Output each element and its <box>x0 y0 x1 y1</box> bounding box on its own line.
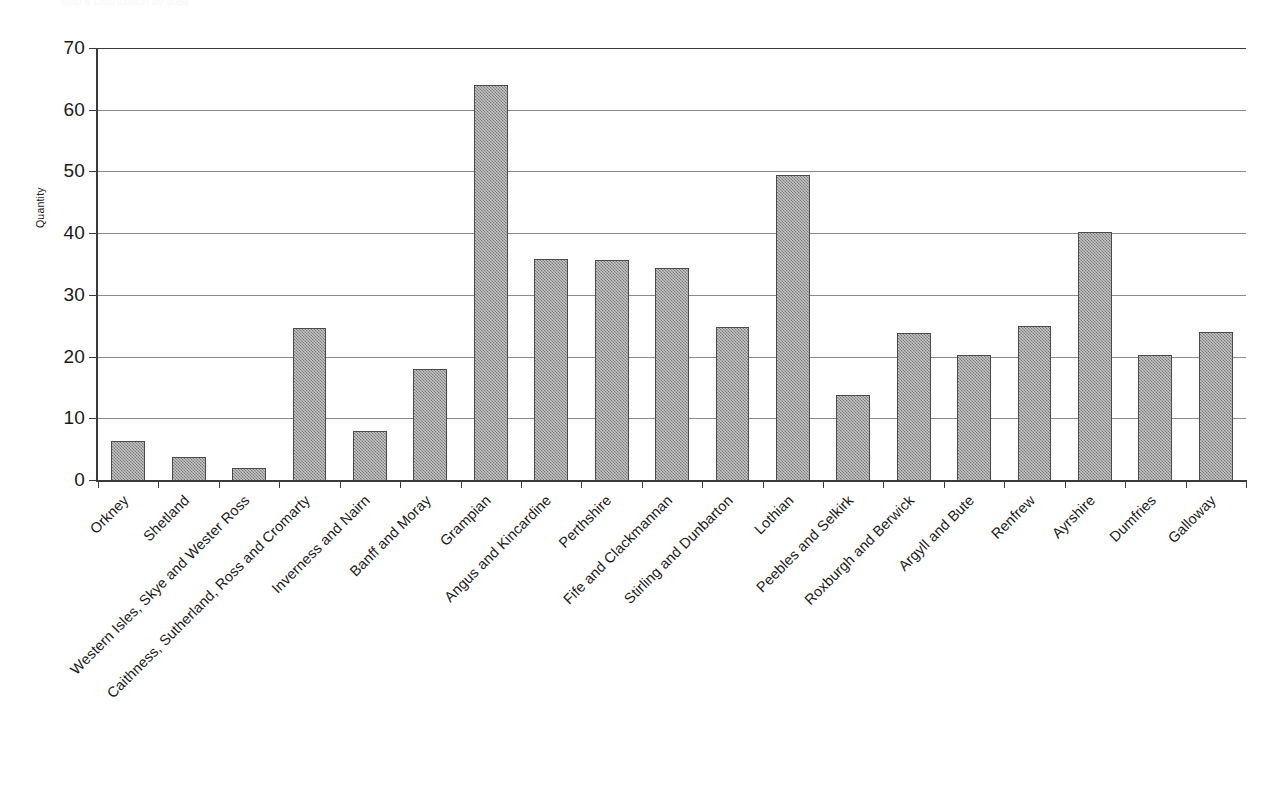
bar[interactable] <box>172 457 206 480</box>
bar[interactable] <box>1138 355 1172 480</box>
bar-slot <box>158 48 218 480</box>
bar[interactable] <box>1078 232 1112 480</box>
bar[interactable] <box>353 431 387 480</box>
bar-slot <box>98 48 158 480</box>
x-axis-tick-label: Perthshire <box>556 492 615 551</box>
bar[interactable] <box>232 468 266 480</box>
bar[interactable] <box>897 333 931 480</box>
bar[interactable] <box>293 328 327 480</box>
x-axis-tick <box>1246 480 1247 488</box>
y-axis-tick-label: 0 <box>74 469 85 491</box>
y-axis-tick <box>89 418 98 419</box>
bar-slot <box>642 48 702 480</box>
bar-slot <box>279 48 339 480</box>
bar-slot <box>1004 48 1064 480</box>
cut-off-title: Map 6 Distribution by area <box>60 0 660 6</box>
bar[interactable] <box>474 85 508 480</box>
bar-slot <box>340 48 400 480</box>
bar-slot <box>1186 48 1246 480</box>
bar-slot <box>581 48 641 480</box>
y-axis-tick <box>89 480 98 481</box>
y-axis-tick <box>89 48 98 49</box>
y-axis-tick <box>89 233 98 234</box>
y-axis-tick <box>89 110 98 111</box>
bar[interactable] <box>1018 326 1052 480</box>
bar[interactable] <box>957 355 991 480</box>
bar[interactable] <box>413 369 447 480</box>
x-axis-tick-label: Roxburgh and Berwick <box>801 492 917 608</box>
y-axis-tick-label: 60 <box>63 99 85 121</box>
plot-area: 706050403020100 <box>96 48 1246 482</box>
x-axis-tick-label: Orkney <box>87 492 132 537</box>
bar[interactable] <box>534 259 568 480</box>
bar[interactable] <box>655 268 689 480</box>
x-axis-tick-label: Galloway <box>1165 492 1219 546</box>
bar-slot <box>1065 48 1125 480</box>
x-axis-tick-label: Stirling and Dunbarton <box>621 492 736 607</box>
y-axis-tick-label: 50 <box>63 160 85 182</box>
bar-series <box>98 48 1246 480</box>
bar-slot <box>944 48 1004 480</box>
x-axis-tick-label: Lothian <box>751 492 796 537</box>
bar[interactable] <box>776 175 810 480</box>
y-axis-tick <box>89 295 98 296</box>
bar-slot <box>219 48 279 480</box>
bar[interactable] <box>716 327 750 480</box>
x-axis-tick-label: Ayrshire <box>1049 492 1098 541</box>
bar-slot <box>702 48 762 480</box>
x-axis-tick-label: Angus and Kincardine <box>441 492 554 605</box>
x-axis-tick-label: Dumfries <box>1106 492 1159 545</box>
bar-slot <box>400 48 460 480</box>
bar[interactable] <box>595 260 629 480</box>
bar-slot <box>461 48 521 480</box>
x-axis-labels: OrkneyShetlandWestern Isles, Skye and We… <box>96 484 1246 654</box>
bar[interactable] <box>111 441 145 480</box>
bar-slot <box>823 48 883 480</box>
x-axis-tick-label: Grampian <box>437 492 494 549</box>
y-axis-title: Quantity <box>34 187 46 228</box>
y-axis-tick-label: 30 <box>63 284 85 306</box>
bar[interactable] <box>836 395 870 480</box>
x-axis-tick-label: Shetland <box>140 492 192 544</box>
x-axis-tick-label: Renfrew <box>988 492 1038 542</box>
bar-slot <box>521 48 581 480</box>
x-axis-tick-label: Fife and Clackmannan <box>560 492 675 607</box>
y-axis-tick-label: 40 <box>63 222 85 244</box>
y-axis-tick-label: 20 <box>63 346 85 368</box>
bar-slot <box>883 48 943 480</box>
bar[interactable] <box>1199 332 1233 480</box>
y-axis-tick <box>89 171 98 172</box>
bar-slot <box>763 48 823 480</box>
y-axis-tick-label: 70 <box>63 37 85 59</box>
chart-page: Map 6 Distribution by area Quantity 7060… <box>0 0 1274 785</box>
y-axis-tick-label: 10 <box>63 407 85 429</box>
bar-slot <box>1125 48 1185 480</box>
y-axis-tick <box>89 357 98 358</box>
